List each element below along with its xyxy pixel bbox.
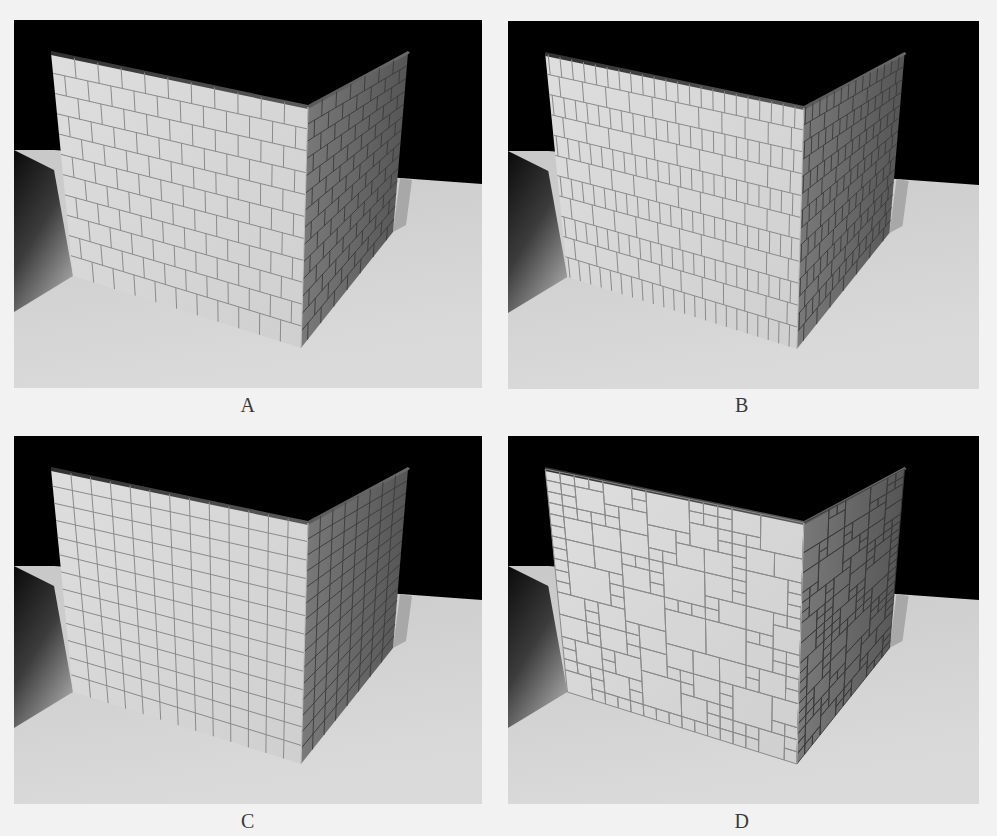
render-panel-a	[14, 20, 482, 388]
scene-render-a	[14, 20, 482, 388]
render-panel-c	[14, 436, 482, 804]
scene-render-d	[508, 436, 979, 804]
panel-label-c: C	[14, 810, 482, 833]
cropped-caption-fragment	[0, 0, 997, 5]
panel-label-b: B	[508, 394, 976, 417]
panel-label-a: A	[14, 394, 482, 417]
scene-render-c	[14, 436, 482, 804]
panel-label-d: D	[508, 810, 976, 833]
render-panel-b	[508, 21, 979, 389]
scene-render-b	[508, 21, 979, 389]
render-panel-d	[508, 436, 979, 804]
